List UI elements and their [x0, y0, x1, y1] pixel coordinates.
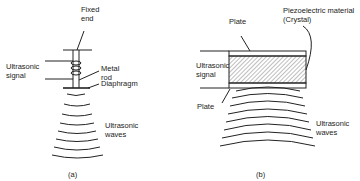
- label-crystal: Piezoelectric material (Crystal): [283, 7, 354, 24]
- label-plate-top: Plate: [229, 18, 246, 27]
- leader-diaphragm: [88, 84, 99, 88]
- crystal: [229, 56, 306, 83]
- leader-fixed-end: [77, 31, 84, 50]
- leader-rod: [79, 71, 99, 80]
- ultrasonic-waves-icon: [52, 94, 103, 158]
- top-plate: [229, 51, 306, 56]
- label-fixed-end: Fixed end: [81, 6, 99, 23]
- caption-a: (a): [68, 171, 77, 180]
- label-plate-bottom: Plate: [197, 103, 214, 112]
- magnetostrictive-transducer: [45, 31, 103, 158]
- leader-bottom-plate: [222, 89, 230, 103]
- label-waves-b: Ultrasonic waves: [316, 120, 349, 137]
- label-signal-a: Ultrasonic signal: [6, 63, 39, 80]
- label-signal-b: Ultrasonic signal: [196, 62, 229, 79]
- label-diaphragm: Diaphragm: [101, 80, 138, 89]
- label-waves-a: Ultrasonic waves: [105, 122, 138, 139]
- diagram-canvas: [0, 0, 360, 181]
- caption-b: (b): [256, 171, 265, 180]
- leader-top-plate: [241, 36, 250, 51]
- ultrasonic-waves-icon: [220, 87, 315, 146]
- piezoelectric-transducer: [200, 26, 315, 146]
